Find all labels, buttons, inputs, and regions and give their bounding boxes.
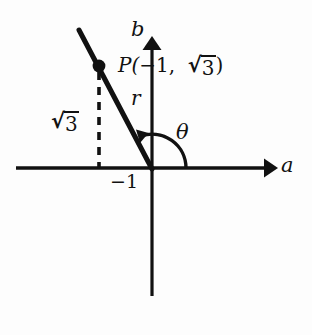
x-intercept-tick-label: −1: [110, 172, 138, 191]
point-p-x-value: −1,: [139, 53, 175, 77]
height-radicand: 3: [64, 111, 79, 134]
ray-line-through-p: [79, 30, 152, 169]
point-p-suffix: ): [216, 53, 224, 77]
a-axis-arrowhead-icon: [264, 159, 278, 178]
diagram-canvas: [0, 0, 312, 335]
point-p-sqrt-group: √3: [188, 55, 216, 78]
angle-theta-label: θ: [176, 122, 189, 143]
math-diagram-figure: b a r θ −1 P(−1, √3) √3: [0, 0, 312, 335]
height-sqrt-group: √3: [51, 111, 79, 134]
radical-sign-icon: √: [51, 111, 65, 132]
point-p-prefix: P(: [118, 53, 139, 77]
point-p-radicand: 3: [201, 55, 216, 78]
ray-length-label: r: [131, 88, 141, 108]
radical-sign-icon: √: [188, 55, 202, 76]
point-p-marker: [93, 60, 106, 73]
height-sqrt3-label: √3: [51, 111, 79, 134]
b-axis-label: b: [131, 19, 144, 40]
point-p-label: P(−1, √3): [118, 55, 223, 78]
a-axis-label: a: [281, 155, 294, 176]
b-axis-arrowhead-icon: [143, 36, 162, 50]
